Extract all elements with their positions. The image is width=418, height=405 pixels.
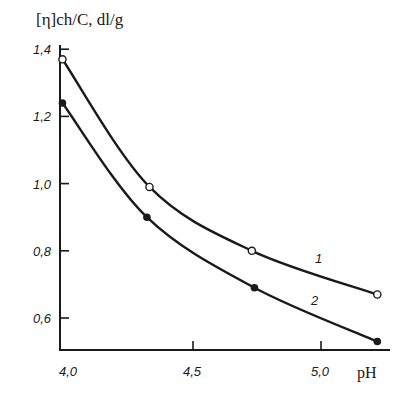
- series-1-point: [146, 183, 153, 190]
- x-ticks: 4,04,55,0: [59, 341, 330, 379]
- y-tick-label: 1,4: [33, 42, 51, 57]
- series-2-point: [251, 284, 259, 292]
- series-1-point: [59, 56, 66, 63]
- series-group: [59, 56, 381, 346]
- y-tick-label: 1,2: [33, 109, 52, 124]
- x-tick-label: 5,0: [311, 364, 330, 379]
- series-2-line: [62, 103, 377, 342]
- series-2-point: [143, 213, 151, 221]
- series-1-point: [248, 247, 255, 254]
- x-axis-label: pH: [357, 364, 377, 382]
- series-1-point: [374, 291, 381, 298]
- y-ticks: 1,41,21,00,80,6: [33, 42, 69, 326]
- series-2-point: [374, 338, 382, 346]
- y-tick-label: 0,6: [33, 311, 52, 326]
- y-tick-label: 1,0: [33, 177, 52, 192]
- series-2-point: [59, 99, 67, 107]
- x-tick-label: 4,5: [183, 364, 202, 379]
- x-tick-label: 4,0: [59, 364, 78, 379]
- curve-label-1: 1: [315, 251, 322, 266]
- viscosity-ph-chart: [η]ch/C, dl/g 1,41,21,00,80,6 4,04,55,0 …: [0, 0, 418, 405]
- curve-label-2: 2: [310, 293, 319, 308]
- y-axis-label: [η]ch/C, dl/g: [36, 10, 124, 29]
- series-1-line: [62, 59, 377, 294]
- y-tick-label: 0,8: [33, 244, 52, 259]
